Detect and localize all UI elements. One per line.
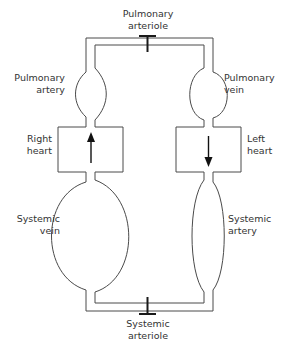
label-systemic-artery-line1: Systemic (228, 213, 271, 224)
systemic-arteriole-valve (139, 297, 156, 315)
label-right-heart-line2: heart (27, 145, 53, 156)
pulmonary-artery-vessel (76, 68, 107, 127)
systemic-arteriole-tube (86, 290, 213, 311)
pulmonary-arteriole-tube (86, 38, 213, 72)
label-pulmonary-arteriole-line1: Pulmonary (123, 8, 174, 19)
right-heart-chamber (58, 127, 123, 172)
label-right-heart: Right heart (27, 133, 53, 156)
systemic-artery-vessel (192, 172, 224, 292)
label-pulmonary-vein: Pulmonary vein (224, 72, 275, 95)
label-pulmonary-arteriole-line2: arteriole (128, 20, 168, 31)
label-left-heart-line2: heart (247, 145, 273, 156)
label-systemic-artery-line2: artery (228, 225, 257, 236)
circulation-diagram: Pulmonary arteriole Pulmonary artery Pul… (0, 0, 286, 345)
circulation-diagram-canvas: Pulmonary arteriole Pulmonary artery Pul… (0, 0, 286, 345)
left-heart-down-arrow (205, 136, 213, 167)
label-systemic-vein: Systemic vein (17, 213, 60, 236)
label-pulmonary-vein-line2: vein (224, 84, 244, 95)
label-right-heart-line1: Right (27, 133, 52, 144)
label-left-heart-line1: Left (247, 133, 265, 144)
label-pulmonary-vein-line1: Pulmonary (224, 72, 275, 83)
label-systemic-arteriole-line1: Systemic (126, 318, 169, 329)
label-systemic-arteriole-line2: arteriole (128, 330, 168, 341)
label-pulmonary-arteriole: Pulmonary arteriole (123, 8, 174, 31)
label-pulmonary-artery-line2: artery (36, 84, 65, 95)
pulmonary-vein-vessel (190, 68, 228, 127)
label-systemic-artery: Systemic artery (228, 213, 271, 236)
left-heart-chamber (176, 127, 241, 172)
label-systemic-vein-line1: Systemic (17, 213, 60, 224)
systemic-vein-vessel (52, 172, 129, 292)
label-systemic-vein-line2: vein (40, 225, 60, 236)
label-systemic-arteriole: Systemic arteriole (126, 318, 169, 341)
label-pulmonary-artery-line1: Pulmonary (14, 72, 65, 83)
label-left-heart: Left heart (247, 133, 273, 156)
right-heart-up-arrow (87, 132, 95, 163)
label-pulmonary-artery: Pulmonary artery (14, 72, 65, 95)
